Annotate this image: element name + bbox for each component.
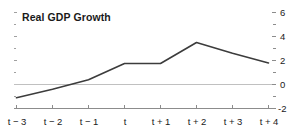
x-tick-label-t-plus-4: t + 4: [260, 116, 279, 127]
x-axis-ticks: [17, 105, 269, 109]
x-tick-label-t-minus-1: t − 1: [80, 116, 99, 127]
y-tick-label-4: 4: [280, 31, 285, 42]
x-tick-label-t-minus-2: t − 2: [44, 116, 63, 127]
x-tick-label-t-plus-1: t + 1: [152, 116, 171, 127]
y-axis-left-ticks: [14, 13, 17, 97]
x-tick-label-t-plus-2: t + 2: [188, 116, 207, 127]
series-line-real-gdp-growth: [17, 43, 269, 98]
chart-container: Real GDP Growth: [0, 0, 293, 137]
y-tick-label-6: 6: [280, 7, 285, 18]
x-tick-label-t-minus-3: t − 3: [8, 116, 27, 127]
y-tick-label-0: 0: [280, 79, 285, 90]
y-tick-label-2: 2: [280, 55, 285, 66]
y-axis-right-ticks: [272, 13, 276, 109]
y-tick-label-minus-2: -2: [278, 103, 286, 114]
x-tick-label-t-plus-3: t + 3: [224, 116, 243, 127]
x-tick-label-t: t: [124, 116, 127, 127]
